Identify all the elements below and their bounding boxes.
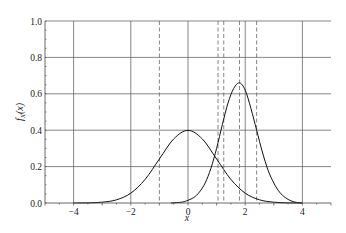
x-tick-label: 2 bbox=[243, 207, 248, 217]
y-tick-label: 0.4 bbox=[30, 126, 42, 136]
y-tick-label: 0.6 bbox=[30, 89, 42, 99]
grid-lines bbox=[45, 21, 331, 203]
y-axis-ticks: 0.00.20.40.60.81.0 bbox=[30, 17, 46, 209]
x-tick-label: −4 bbox=[69, 207, 79, 217]
x-tick-label: −2 bbox=[126, 207, 136, 217]
density-curve bbox=[171, 83, 303, 203]
x-axis-label: x bbox=[184, 212, 190, 223]
x-tick-label: 4 bbox=[300, 207, 305, 217]
y-tick-label: 0.2 bbox=[30, 162, 42, 172]
y-tick-label: 1.0 bbox=[30, 17, 42, 27]
y-tick-label: 0.0 bbox=[30, 199, 42, 209]
density-chart: −4−2024 0.00.20.40.60.81.0 x fX(x) bbox=[0, 0, 346, 233]
y-tick-label: 0.8 bbox=[30, 53, 42, 63]
y-axis-label: fX(x) bbox=[14, 102, 27, 121]
